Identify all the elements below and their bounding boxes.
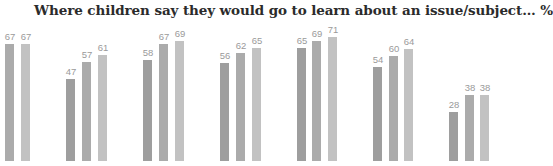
bar-value-label: 67 — [16, 31, 36, 42]
bar — [220, 63, 229, 161]
bar — [373, 67, 382, 161]
bar-value-label: 38 — [475, 82, 495, 93]
bar-value-label: 71 — [323, 24, 343, 35]
bar — [465, 95, 474, 161]
bar-value-label: 54 — [368, 54, 388, 65]
bar — [480, 95, 489, 161]
bar-value-label: 61 — [93, 42, 113, 53]
bar — [404, 49, 413, 161]
bar — [236, 53, 245, 161]
bar-value-label: 64 — [399, 36, 419, 47]
bar — [328, 37, 337, 161]
bar — [82, 62, 91, 161]
bar — [312, 41, 321, 161]
bar-value-label: 56 — [215, 50, 235, 61]
bar — [252, 48, 261, 161]
bar-value-label: 28 — [444, 99, 464, 110]
bar — [21, 44, 30, 161]
bar — [175, 41, 184, 161]
bar-value-label: 65 — [247, 35, 267, 46]
bar — [159, 44, 168, 161]
bar — [297, 48, 306, 161]
bar — [66, 79, 75, 161]
bar — [5, 44, 14, 161]
bar — [389, 56, 398, 161]
bar — [98, 55, 107, 161]
bar-value-label: 58 — [138, 47, 158, 58]
bar — [449, 112, 458, 161]
bar-value-label: 69 — [170, 28, 190, 39]
bar — [143, 60, 152, 161]
bar-value-label: 47 — [61, 66, 81, 77]
